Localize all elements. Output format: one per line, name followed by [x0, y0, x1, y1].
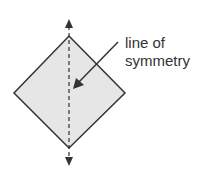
- arrowhead-down-icon: [65, 157, 73, 166]
- label-line-2: symmetry: [125, 52, 190, 70]
- label-line-1: line of: [125, 34, 165, 52]
- arrowhead-up-icon: [65, 19, 73, 28]
- symmetry-diagram: [0, 0, 205, 181]
